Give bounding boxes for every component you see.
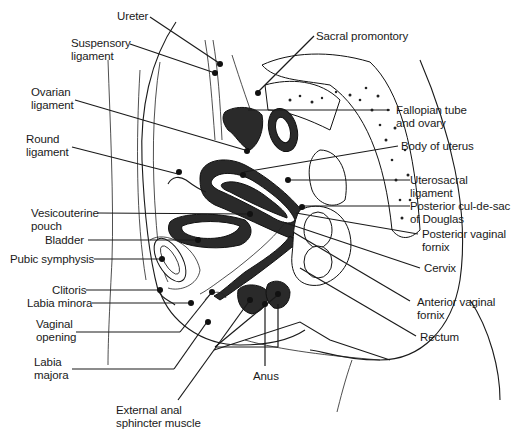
label-ureter: Ureter [117, 10, 148, 23]
label-anus: Anus [253, 370, 279, 383]
label-ovarian-ligament: Ovarian ligament [31, 86, 74, 112]
gluteal-line [337, 360, 352, 412]
label-anterior-vaginal-fornix: Anterior vaginal fornix [417, 296, 495, 322]
label-fallopian-tube-ovary: Fallopian tube and ovary [396, 104, 467, 130]
fimbriae [223, 107, 263, 150]
label-sacral-promontory: Sacral promontory [316, 30, 408, 43]
label-bladder: Bladder [45, 234, 84, 247]
label-cervix: Cervix [424, 262, 456, 275]
label-posterior-cul-de-sac: Posterior cul-de-sac of Douglas [410, 200, 510, 226]
label-pubic-symphysis: Pubic symphysis [10, 253, 94, 266]
ureter-vessel-2 [213, 40, 222, 140]
leader-lines-bottom [178, 294, 279, 400]
label-clitoris: Clitoris [52, 284, 86, 297]
fascia-line-2 [138, 70, 146, 280]
label-posterior-vaginal-fornix: Posterior vaginal fornix [422, 228, 506, 254]
label-vesicouterine-pouch: Vesicouterine pouch [31, 207, 99, 233]
pelvic-anatomy-diagram: Ureter Suspensory ligament Ovarian ligam… [0, 0, 511, 436]
label-suspensory-ligament: Suspensory ligament [71, 37, 131, 63]
label-labia-majora: Labia majora [34, 356, 69, 382]
perineum-skin [214, 322, 390, 360]
label-rectum: Rectum [420, 331, 459, 344]
label-round-ligament: Round ligament [26, 133, 69, 159]
perineal-muscle [238, 285, 269, 314]
label-body-of-uterus: Body of uterus [401, 140, 474, 153]
label-external-anal-sphincter: External anal sphincter muscle [116, 404, 201, 430]
label-vaginal-opening: Vaginal opening [36, 318, 76, 344]
label-labia-minora: Labia minora [27, 297, 92, 310]
label-uterosacral-ligament: Uterosacral ligament [410, 174, 468, 200]
